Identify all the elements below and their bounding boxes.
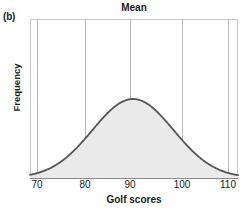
x-tick-label-70: 70 [22, 179, 52, 190]
x-tick-label-80: 80 [70, 179, 100, 190]
x-tick-label-100: 100 [167, 179, 197, 190]
x-axis-title: Golf scores [30, 194, 238, 205]
chart-figure: (b) Mean Frequency 70 80 90 100 110 Golf… [0, 0, 244, 210]
x-tick-label-110: 110 [213, 179, 243, 190]
x-tick-label-90: 90 [115, 179, 145, 190]
distribution-fill [30, 99, 238, 178]
